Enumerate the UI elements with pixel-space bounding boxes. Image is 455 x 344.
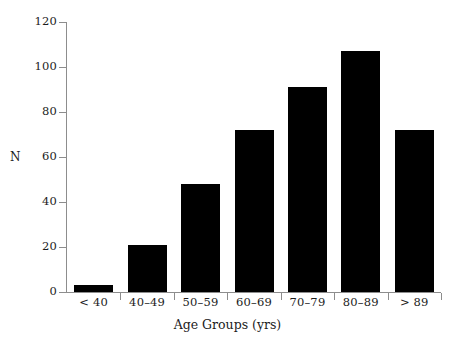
y-axis-tick xyxy=(59,112,66,113)
plot-area xyxy=(67,22,441,292)
x-axis-tick-label: < 40 xyxy=(67,296,120,309)
y-axis-tick-label-wrap: 0 xyxy=(0,286,57,298)
bar-chart: 020406080100120 N < 4040–4950–5960–6970–… xyxy=(0,0,455,344)
y-axis-tick xyxy=(59,292,66,293)
x-axis-tick-label: 70–79 xyxy=(281,296,334,309)
x-axis-title: Age Groups (yrs) xyxy=(0,318,455,332)
bar xyxy=(235,130,274,292)
y-axis-tick-label: 120 xyxy=(15,16,57,28)
x-axis-tick-label: 60–69 xyxy=(227,296,280,309)
y-axis-tick-label-wrap: 40 xyxy=(0,196,57,208)
x-axis-tick-label: 80–89 xyxy=(334,296,387,309)
y-axis-tick-label-wrap: 80 xyxy=(0,106,57,118)
y-axis-tick-label-wrap: 120 xyxy=(0,16,57,28)
y-axis-tick-label: 60 xyxy=(15,151,57,163)
bar xyxy=(288,87,327,292)
y-axis-tick-label-wrap: 60 xyxy=(0,151,57,163)
bar xyxy=(395,130,434,292)
y-axis-tick-label-wrap: 20 xyxy=(0,241,57,253)
y-axis-tick xyxy=(59,157,66,158)
y-axis-tick-label: 80 xyxy=(15,106,57,118)
bar xyxy=(181,184,220,292)
bar xyxy=(128,245,167,292)
y-axis-tick xyxy=(59,22,66,23)
y-axis-tick xyxy=(59,247,66,248)
bar xyxy=(341,51,380,292)
y-axis-title: N xyxy=(10,151,21,163)
y-axis-tick xyxy=(59,67,66,68)
y-axis-tick xyxy=(59,202,66,203)
x-axis-tick-label: 50–59 xyxy=(174,296,227,309)
y-axis-tick-label: 20 xyxy=(15,241,57,253)
y-axis-tick-label-wrap: 100 xyxy=(0,61,57,73)
x-axis-tick-label: 40–49 xyxy=(120,296,173,309)
y-axis-tick-label: 0 xyxy=(15,286,57,298)
x-axis-tick-label: > 89 xyxy=(388,296,441,309)
y-axis-tick-label: 40 xyxy=(15,196,57,208)
bar xyxy=(74,285,113,292)
x-axis-line xyxy=(66,292,441,293)
y-axis-tick-label: 100 xyxy=(15,61,57,73)
x-axis-separator-tick xyxy=(441,293,442,300)
